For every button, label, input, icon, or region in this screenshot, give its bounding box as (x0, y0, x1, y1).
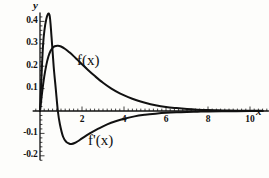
plot-canvas (0, 0, 269, 178)
axes-group (33, 12, 269, 160)
y-tick-label: 0.4 (26, 15, 37, 25)
x-tick-label: 8 (196, 114, 220, 124)
x-tick-label: 4 (112, 114, 136, 124)
series-annotation-fprimex: f'(x) (88, 132, 113, 149)
series-annotation-fx: f(x) (77, 52, 100, 69)
curve-fprimex (40, 13, 263, 144)
y-tick-label: -0.2 (23, 149, 37, 159)
x-tick-label: 2 (70, 114, 94, 124)
y-tick-label: 0.2 (26, 60, 37, 70)
y-axis-label: y (33, 0, 38, 11)
y-tick-label: -0.1 (23, 127, 37, 137)
y-tick-label: 0.1 (26, 82, 37, 92)
function-plot-figure: y x 0.40.30.20.1-0.1-0.2 246810 f(x) f'(… (0, 0, 269, 178)
curve-fx (40, 46, 263, 111)
x-tick-label: 6 (154, 114, 178, 124)
x-tick-label: 10 (238, 114, 262, 124)
curves-group (40, 13, 263, 144)
tick-marks-group (36, 17, 267, 160)
y-tick-label: 0.3 (26, 37, 37, 47)
